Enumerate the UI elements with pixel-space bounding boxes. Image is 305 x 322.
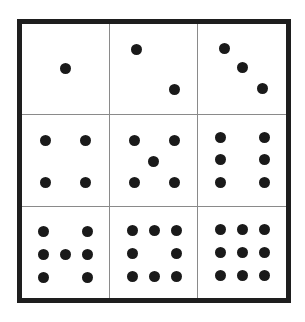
- dot: [149, 271, 160, 282]
- vertical-divider-1: [109, 24, 110, 298]
- dot: [259, 132, 270, 143]
- horizontal-divider-1: [22, 114, 286, 115]
- dot: [38, 272, 49, 283]
- dot: [82, 249, 93, 260]
- dot: [82, 272, 93, 283]
- dot: [149, 225, 160, 236]
- dot: [131, 44, 142, 55]
- vertical-divider-2: [197, 24, 198, 298]
- dot: [171, 225, 182, 236]
- dot: [215, 177, 226, 188]
- dot: [237, 224, 248, 235]
- dot: [257, 83, 268, 94]
- dot: [171, 248, 182, 259]
- dot: [259, 270, 270, 281]
- dot: [237, 62, 248, 73]
- dot: [38, 249, 49, 260]
- dot: [215, 247, 226, 258]
- horizontal-divider-2: [22, 206, 286, 207]
- dot: [237, 247, 248, 258]
- dot: [127, 248, 138, 259]
- dot: [80, 135, 91, 146]
- dot: [215, 132, 226, 143]
- dot: [169, 135, 180, 146]
- dot: [171, 271, 182, 282]
- dot: [259, 177, 270, 188]
- dot: [129, 135, 140, 146]
- dot: [215, 154, 226, 165]
- dot: [215, 270, 226, 281]
- dot: [60, 249, 71, 260]
- dot: [82, 226, 93, 237]
- dot: [40, 135, 51, 146]
- dot-grid-figure: [0, 0, 305, 322]
- dot: [237, 270, 248, 281]
- dot: [148, 156, 159, 167]
- dot: [259, 247, 270, 258]
- dot: [40, 177, 51, 188]
- dot: [129, 177, 140, 188]
- dot: [259, 154, 270, 165]
- dot: [38, 226, 49, 237]
- dot: [60, 63, 71, 74]
- dot: [219, 43, 230, 54]
- dot: [169, 84, 180, 95]
- dot: [259, 224, 270, 235]
- dot: [127, 225, 138, 236]
- dot: [80, 177, 91, 188]
- dot: [215, 224, 226, 235]
- dot: [169, 177, 180, 188]
- dot: [127, 271, 138, 282]
